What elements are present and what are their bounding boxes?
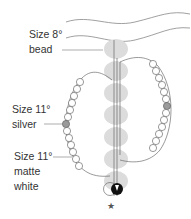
size11-matte-bead [70, 92, 77, 99]
size8-bead [104, 83, 128, 103]
size11-matte-bead [63, 127, 70, 134]
size11-matte-bead [162, 95, 169, 102]
size11-matte-bead [149, 144, 156, 151]
start-star-icon: ★ [107, 200, 115, 213]
size11-matte-bead [72, 155, 79, 162]
size11-matte-bead [75, 162, 82, 169]
size11-matte-bead [69, 148, 76, 155]
label-matte-line1: Size 11° [14, 150, 52, 163]
label-silver-line2: silver [12, 118, 37, 131]
size11-matte-bead [66, 106, 73, 113]
size11-matte-bead [158, 81, 165, 88]
size11-matte-bead [160, 88, 167, 95]
size8-bead [104, 127, 128, 147]
size11-matte-bead [65, 134, 72, 141]
size11-matte-bead [64, 113, 71, 120]
size8-bead [104, 39, 128, 59]
size11-matte-bead [76, 78, 83, 85]
size8-bead [104, 149, 128, 169]
size11-matte-bead [160, 116, 167, 123]
label-silver-line1: Size 11° [12, 103, 50, 116]
size11-matte-bead [152, 67, 159, 74]
label-size8-line2: bead [29, 43, 52, 56]
size11-matte-bead [158, 123, 165, 130]
size8-bead [104, 105, 128, 125]
size11-matte-bead [155, 74, 162, 81]
label-size8-line1: Size 8° [29, 28, 62, 41]
beading-diagram: Size 8° bead Size 11° silver Size 11° ma… [0, 0, 191, 219]
cord-bottom [66, 28, 190, 42]
size11-matte-bead [162, 109, 169, 116]
size11-matte-bead [149, 60, 156, 67]
label-matte-line2: matte [14, 165, 40, 178]
size11-silver-bead [62, 120, 69, 127]
size11-silver-bead [163, 102, 170, 109]
size11-matte-bead [155, 130, 162, 137]
cord-top [66, 13, 190, 24]
size11-matte-bead [152, 137, 159, 144]
size11-matte-bead [68, 99, 75, 106]
size8-bead [104, 61, 128, 81]
size8-bead-stack [104, 39, 128, 191]
label-matte-line3: white [14, 180, 39, 193]
right-size11-strand [149, 60, 170, 151]
size11-matte-bead [73, 85, 80, 92]
size11-matte-bead [67, 141, 74, 148]
